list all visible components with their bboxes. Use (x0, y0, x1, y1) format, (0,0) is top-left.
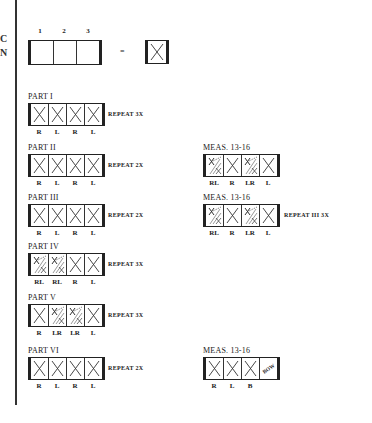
equals-sign: = (120, 47, 125, 56)
empty-cell (54, 41, 77, 64)
cross-cell (85, 155, 102, 176)
foot-label: R (30, 382, 48, 390)
cross-icon (49, 205, 66, 226)
section-label: PART V (28, 293, 56, 302)
foot-labels: RLB (205, 382, 277, 390)
cross-cell (67, 358, 85, 379)
cross-cell (49, 155, 67, 176)
foot-label: RL (30, 278, 48, 286)
foot-label: R (66, 128, 84, 136)
hatched-cross-icon (31, 254, 48, 275)
cross-icon (85, 254, 102, 275)
foot-label: L (48, 128, 66, 136)
cross-icon (31, 104, 48, 125)
step-boxes (28, 154, 105, 177)
repeat-instruction: REPEAT 3X (108, 111, 143, 117)
section-label: MEAS. 13-16 (203, 193, 250, 202)
cross-cell (31, 155, 49, 176)
legend-single-box (145, 40, 169, 64)
repeat-instruction: REPEAT 2X (108, 162, 143, 168)
step-boxes: BOW (203, 357, 280, 380)
cross-cell (242, 358, 260, 379)
foot-labels: RLRL (30, 382, 102, 390)
cross-icon (148, 41, 166, 63)
foot-label: RL (205, 229, 223, 237)
cross-cell (67, 104, 85, 125)
foot-label: L (223, 382, 241, 390)
repeat-instruction: REPEAT 2X (108, 365, 143, 371)
step-boxes (28, 357, 105, 380)
cross-icon (31, 358, 48, 379)
foot-label: LR (241, 179, 259, 187)
legend-number: 1 (28, 27, 52, 35)
cross-cell (85, 305, 102, 326)
cross-cell (224, 155, 242, 176)
foot-label: R (66, 229, 84, 237)
cross-icon (206, 358, 223, 379)
cross-cell (49, 205, 67, 226)
cross-cell (67, 254, 85, 275)
cross-icon (242, 358, 259, 379)
legend-number: 2 (52, 27, 76, 35)
cross-cell (260, 155, 277, 176)
foot-label: B (241, 382, 259, 390)
foot-labels: RLRLRL (30, 329, 102, 337)
section-label: MEAS. 13-16 (203, 143, 250, 152)
hatched-cell (206, 155, 224, 176)
hatched-cell (242, 155, 260, 176)
legend-boxes (28, 40, 102, 65)
svg-text:BOW: BOW (261, 362, 276, 375)
cross-icon (260, 205, 277, 226)
bow-cell: BOW (260, 358, 277, 379)
cross-cell (85, 358, 102, 379)
foot-label: LR (48, 329, 66, 337)
foot-label: L (84, 179, 102, 187)
cross-cell (49, 358, 67, 379)
section-label: PART II (28, 143, 56, 152)
foot-label: L (259, 179, 277, 187)
hatched-cell (49, 305, 67, 326)
foot-label: R (66, 278, 84, 286)
foot-label: R (223, 179, 241, 187)
cross-icon (85, 205, 102, 226)
step-boxes (28, 253, 105, 276)
foot-label: RL (48, 278, 66, 286)
cross-icon (224, 155, 241, 176)
cross-cell (206, 358, 224, 379)
hatched-cell (242, 205, 260, 226)
cross-cell (260, 205, 277, 226)
step-boxes (203, 204, 280, 227)
legend-number: 3 (76, 27, 100, 35)
foot-labels: RLRLRL (205, 179, 277, 187)
foot-label: R (30, 229, 48, 237)
foot-label: L (48, 382, 66, 390)
repeat-instruction: REPEAT 2X (108, 212, 143, 218)
cross-icon (67, 205, 84, 226)
repeat-instruction: REPEAT 3X (108, 261, 143, 267)
cross-icon (67, 254, 84, 275)
foot-label: L (84, 329, 102, 337)
foot-labels: RLRL (30, 179, 102, 187)
hatched-cell (31, 254, 49, 275)
margin-letter: C (0, 33, 7, 44)
section-label: PART I (28, 92, 53, 101)
hatched-cell (67, 305, 85, 326)
foot-label: L (84, 229, 102, 237)
foot-labels: RLRL (30, 128, 102, 136)
repeat-instruction: REPEAT III 3X (284, 212, 329, 218)
foot-label: R (30, 128, 48, 136)
step-boxes (28, 204, 105, 227)
cross-icon (85, 155, 102, 176)
cross-icon (260, 155, 277, 176)
section-label: MEAS. 13-16 (203, 346, 250, 355)
cross-icon (31, 205, 48, 226)
cross-icon (49, 358, 66, 379)
margin-letter: N (0, 47, 7, 58)
foot-label: LR (66, 329, 84, 337)
cross-cell (31, 305, 49, 326)
foot-labels: RLRL (30, 229, 102, 237)
cross-cell (31, 41, 54, 64)
cross-icon (67, 358, 84, 379)
margin-rule (15, 0, 17, 405)
cross-cell (85, 254, 102, 275)
